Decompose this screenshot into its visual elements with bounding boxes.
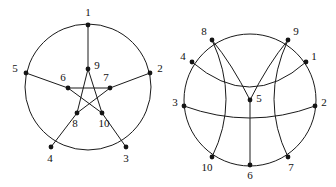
left-label-5: 5 [12,62,18,74]
right-figure-group: 1 2 3 4 5 6 7 8 9 10 [172,25,327,181]
right-node-4 [190,60,195,65]
left-spokes [26,25,150,147]
left-label-2: 2 [157,62,163,74]
right-arc-meridian-9-7 [274,40,288,157]
right-label-1: 1 [311,50,317,62]
right-arc-upper-4-1 [192,62,306,87]
right-node-5 [248,98,253,103]
right-node-2 [313,104,318,109]
left-node-4 [49,145,54,150]
left-node-5 [24,71,29,76]
left-node-1 [86,23,91,28]
right-edge-8-5 [212,40,250,100]
left-label-3: 3 [123,152,129,164]
right-node-7 [286,155,291,160]
right-label-5: 5 [256,92,262,104]
right-node-10 [210,155,215,160]
left-label-7: 7 [103,71,109,83]
right-label-10: 10 [202,161,214,173]
left-node-2 [148,71,153,76]
right-label-3: 3 [172,96,178,108]
right-node-8 [210,38,215,43]
left-label-8: 8 [72,117,78,129]
left-node-10 [100,111,105,116]
right-arc-meridian-8-10 [212,40,226,157]
right-label-7: 7 [288,161,294,173]
left-label-1: 1 [85,6,91,18]
right-label-4: 4 [180,50,186,62]
right-node-3 [182,104,187,109]
left-label-10: 10 [99,117,111,129]
left-node-9 [86,67,91,72]
right-label-8: 8 [201,25,207,37]
left-node-6 [66,86,71,91]
left-node-3 [124,145,129,150]
left-label-9: 9 [94,59,100,71]
left-label-6: 6 [60,71,66,83]
left-figure-group: 1 2 3 4 5 6 7 8 9 10 [12,6,163,164]
right-node-1 [304,60,309,65]
left-label-4: 4 [47,152,53,164]
right-label-6: 6 [247,169,253,181]
left-star-edge-10-6 [68,88,102,113]
left-node-8 [75,111,80,116]
left-spoke-2-7 [110,73,150,88]
figure-board: 1 2 3 4 5 6 7 8 9 10 [0,0,336,187]
right-node-6 [248,163,253,168]
left-star-edge-9-10 [88,69,102,113]
right-label-9: 9 [293,25,299,37]
right-node-9 [286,38,291,43]
figures-svg: 1 2 3 4 5 6 7 8 9 10 [0,0,336,187]
right-label-2: 2 [321,96,327,108]
left-node-7 [108,86,113,91]
